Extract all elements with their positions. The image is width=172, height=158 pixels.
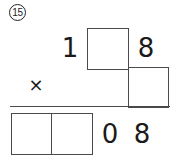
product-answer-box-pair: [11, 113, 93, 155]
multiplicand-hundreds-digit: 1: [62, 33, 78, 63]
problem-number-badge: 15: [9, 4, 26, 21]
product-tens-digit: 0: [99, 119, 121, 149]
product-ones-digit: 8: [131, 119, 153, 149]
math-worksheet-problem: 15 1 8 × 0 8: [0, 0, 172, 158]
multiplicand-tens-answer-box[interactable]: [87, 28, 129, 70]
multiply-operator-icon: ×: [27, 76, 45, 94]
product-right-answer-box[interactable]: [52, 114, 92, 154]
product-left-answer-box[interactable]: [12, 114, 52, 154]
multiplier-ones-answer-box[interactable]: [128, 67, 169, 108]
answer-separator-line: [10, 106, 170, 107]
multiplicand-ones-digit: 8: [135, 33, 157, 63]
